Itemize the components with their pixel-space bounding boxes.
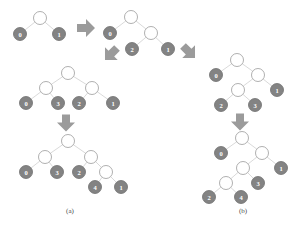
node-circle	[53, 28, 66, 41]
tree-edge	[248, 173, 254, 179]
node-circle	[252, 177, 265, 190]
tree-node-leaf: 1	[53, 28, 66, 41]
tree-edge	[50, 145, 62, 154]
node-circle	[162, 43, 175, 56]
node-circle	[115, 181, 128, 194]
node-circle	[62, 135, 75, 148]
tree-edge	[242, 64, 252, 71]
tree-node-leaf: 1	[115, 181, 128, 194]
tree-edge	[31, 92, 41, 99]
diagram-canvas: 01021032103241012301324 (a)(b)	[0, 0, 297, 225]
node-circle	[252, 69, 265, 82]
tree-node-leaf: 1	[107, 97, 120, 110]
tree-edge	[51, 77, 62, 85]
tree-edge	[243, 94, 250, 100]
tree-edge	[83, 93, 87, 98]
tree-edge	[73, 145, 85, 154]
tree-node-leaf: 0	[210, 69, 223, 82]
tree-edge	[214, 187, 221, 193]
tree-edge	[226, 94, 233, 100]
node-circle	[85, 151, 98, 164]
tree-node-leaf: 0	[20, 166, 33, 179]
tree-node-internal	[252, 69, 265, 82]
node-circle	[256, 147, 269, 160]
node-circle	[20, 166, 33, 179]
caption-a: (a)	[66, 207, 74, 215]
tree-edge	[49, 162, 53, 167]
tree-edge	[243, 79, 253, 86]
node-circle	[107, 97, 120, 110]
node-circle	[125, 11, 138, 24]
tree-edge	[267, 157, 276, 164]
tree-edge	[137, 37, 146, 45]
tree-edge	[25, 22, 35, 30]
node-circle	[203, 191, 216, 204]
tree-node-leaf: 3	[51, 166, 64, 179]
node-circle	[210, 69, 223, 82]
tree-node-leaf: 3	[249, 99, 262, 112]
tree-node-leaf: 0	[14, 28, 27, 41]
node-circle	[34, 12, 47, 25]
tree-edge	[115, 21, 126, 29]
tree-edge	[31, 161, 40, 168]
tree-sequence-diagram: 01021032103241012301324 (a)(b)	[0, 0, 297, 225]
tree-node-leaf: 2	[203, 191, 216, 204]
tree-node-internal	[232, 84, 245, 97]
tree-node-internal	[231, 54, 244, 67]
tree-node-internal	[62, 67, 75, 80]
tree-node-leaf: 0	[20, 97, 33, 110]
node-circle	[52, 97, 65, 110]
arrow-down-right-icon	[177, 40, 202, 65]
node-circle	[275, 162, 288, 175]
node-circle	[271, 84, 284, 97]
tree-node-internal	[125, 11, 138, 24]
captions-layer: (a)(b)	[66, 207, 248, 215]
caption-b: (b)	[239, 207, 248, 215]
tree-node-internal	[256, 147, 269, 160]
tree-edge	[231, 172, 238, 178]
node-circle	[231, 54, 244, 67]
node-circle	[73, 97, 86, 110]
tree-edge	[99, 177, 102, 182]
tree-node-internal	[85, 151, 98, 164]
tree-node-leaf: 3	[252, 177, 265, 190]
tree-node-leaf: 2	[215, 99, 228, 112]
node-circle	[237, 162, 250, 175]
node-circle	[220, 177, 233, 190]
tree-node-internal	[62, 135, 75, 148]
node-circle	[100, 166, 113, 179]
tree-node-leaf: 1	[271, 84, 284, 97]
node-circle	[14, 28, 27, 41]
tree-node-leaf: 0	[215, 147, 228, 160]
tree-edge	[136, 21, 146, 29]
tree-node-leaf: 2	[73, 166, 86, 179]
arrow-down-left-icon	[99, 42, 124, 67]
nodes-layer: 01021032103241012301324	[14, 11, 288, 204]
tree-node-internal	[145, 27, 158, 40]
tree-node-leaf: 1	[275, 162, 288, 175]
node-circle	[126, 43, 139, 56]
node-circle	[62, 67, 75, 80]
tree-edge	[156, 37, 164, 44]
tree-node-leaf: 4	[235, 191, 248, 204]
tree-edge	[45, 22, 54, 30]
node-circle	[104, 27, 117, 40]
tree-edge	[83, 162, 87, 167]
node-circle	[20, 97, 33, 110]
tree-edge	[248, 157, 257, 164]
tree-node-internal	[34, 12, 47, 25]
node-circle	[145, 27, 158, 40]
tree-edge	[96, 162, 102, 168]
arrow-right-icon	[77, 19, 95, 37]
tree-edge	[263, 79, 272, 86]
node-circle	[232, 84, 245, 97]
tree-edge	[97, 92, 107, 99]
node-circle	[39, 151, 52, 164]
tree-node-leaf: 0	[104, 27, 117, 40]
tree-node-leaf: 2	[126, 43, 139, 56]
tree-edge	[247, 142, 257, 149]
node-circle	[51, 166, 64, 179]
node-circle	[215, 147, 228, 160]
tree-edge	[221, 64, 231, 71]
tree-edge	[50, 93, 54, 98]
